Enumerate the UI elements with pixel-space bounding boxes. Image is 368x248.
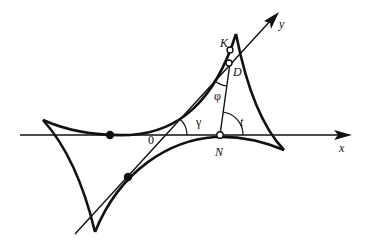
- arc-lower: [95, 137, 284, 232]
- y-axis-arrow-icon: [264, 12, 279, 29]
- point-N: [217, 132, 223, 138]
- deltoid-curve: [43, 34, 284, 232]
- label-N: N: [214, 145, 224, 159]
- y-axis: [75, 12, 279, 234]
- deltoid-diagram: K D N x y 0 γ t φ: [0, 0, 368, 248]
- label-phi: φ: [214, 89, 221, 103]
- label-y: y: [278, 17, 285, 31]
- arc-left: [43, 120, 95, 232]
- tangency-point-axis: [106, 131, 114, 139]
- tangency-point-line: [124, 173, 132, 181]
- point-D: [226, 60, 232, 66]
- x-axis: [20, 130, 352, 140]
- label-origin: 0: [148, 133, 154, 147]
- label-K: K: [219, 36, 229, 50]
- arc-upper: [43, 34, 236, 135]
- angle-gamma-arc: [180, 119, 187, 135]
- label-D: D: [232, 65, 242, 79]
- label-gamma: γ: [195, 115, 202, 129]
- label-x: x: [338, 141, 345, 155]
- diagram-canvas: K D N x y 0 γ t φ: [0, 0, 368, 248]
- label-t: t: [240, 115, 244, 129]
